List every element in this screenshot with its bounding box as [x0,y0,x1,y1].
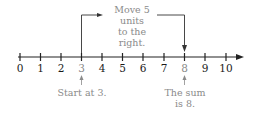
tick-label-4: 4 [99,62,106,74]
tick-label-6: 6 [140,62,147,74]
tick-label-8: 8 [181,62,188,74]
start-annotation: Start at 3. [56,87,108,98]
tick-label-7: 7 [161,62,168,74]
move-arrow-icon [97,13,103,17]
sum-annotation-line2: is 8. [162,98,208,109]
start-up-arrow-icon [80,75,84,80]
sum-bracket-line [157,15,185,46]
sum-up-arrow-icon [183,75,187,80]
tick-label-2: 2 [58,62,65,74]
tick-label-10: 10 [219,62,232,74]
axis-arrowhead-icon [236,54,244,60]
move-bracket-line [82,15,99,53]
down-arrow-icon [182,45,187,52]
tick-label-3: 3 [78,62,85,74]
sum-annotation-line1: The sum [162,87,208,98]
sum-annotation: The sum is 8. [162,87,208,109]
tick-label-1: 1 [37,62,44,74]
move-annotation-line1: Move 5 units [104,4,160,26]
tick-label-9: 9 [202,62,209,74]
tick-label-0: 0 [17,62,24,74]
move-annotation: Move 5 units to the right. [104,4,160,48]
tick-label-5: 5 [119,62,126,74]
move-annotation-line2: to the right. [104,26,160,48]
